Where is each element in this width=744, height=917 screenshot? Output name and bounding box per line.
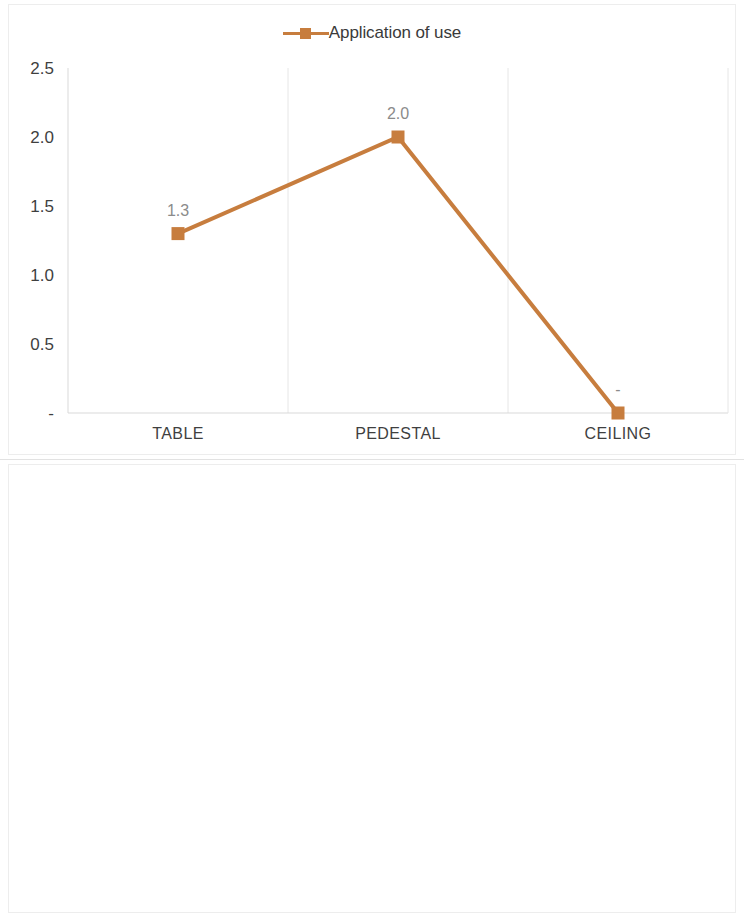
data-point-label: 1.3 bbox=[167, 202, 189, 219]
chart-page: Application of use 2.52.01.51.00.5-1.32.… bbox=[0, 0, 744, 917]
legend-label-application-of-use: Application of use bbox=[329, 24, 461, 41]
chart-panel-application-of-use: Application of use 2.52.01.51.00.5-1.32.… bbox=[0, 0, 744, 460]
line-chart-application-of-use: 2.52.01.51.00.5-1.32.0-TABLEPEDESTALCEIL… bbox=[0, 60, 744, 460]
chart-panel-color: Color 2.52.01.51.00.5-2.0-WITEBLACK bbox=[0, 460, 744, 917]
plot-area-application-of-use: 2.52.01.51.00.5-1.32.0-TABLEPEDESTALCEIL… bbox=[0, 60, 744, 460]
y-axis-tick-label: 1.0 bbox=[30, 266, 54, 285]
y-axis-tick-label: - bbox=[48, 404, 54, 423]
data-point-marker bbox=[172, 227, 185, 240]
legend-application-of-use: Application of use bbox=[0, 24, 744, 41]
legend-marker-icon bbox=[283, 25, 329, 41]
data-point-marker bbox=[612, 407, 625, 420]
y-axis-tick-label: 2.0 bbox=[30, 128, 54, 147]
data-point-label: 2.0 bbox=[387, 105, 409, 122]
x-axis-tick-label: PEDESTAL bbox=[355, 425, 441, 442]
y-axis-tick-label: 0.5 bbox=[30, 335, 54, 354]
series-line bbox=[178, 137, 618, 413]
y-axis-tick-label: 2.5 bbox=[30, 60, 54, 78]
data-point-label: - bbox=[615, 381, 620, 398]
data-point-marker bbox=[392, 131, 405, 144]
panel-border bbox=[8, 464, 736, 913]
y-axis-tick-label: 1.5 bbox=[30, 197, 54, 216]
x-axis-tick-label: CEILING bbox=[585, 425, 652, 442]
x-axis-tick-label: TABLE bbox=[152, 425, 204, 442]
